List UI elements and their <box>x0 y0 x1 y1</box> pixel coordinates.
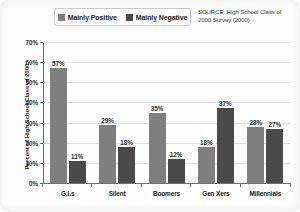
bar <box>168 159 185 183</box>
bar-value-label: 12% <box>170 151 183 158</box>
bar-value-label: 29% <box>101 117 114 124</box>
legend-label-mainly-positive: Mainly Positive <box>68 14 117 21</box>
bar-value-label: 18% <box>120 139 133 146</box>
bar <box>217 108 234 183</box>
bar <box>198 147 215 183</box>
x-tick-label: Silent <box>92 190 141 197</box>
bar-column: 18% <box>198 42 215 183</box>
y-tick-label: 30% <box>25 119 38 126</box>
bar-column: 35% <box>149 42 166 183</box>
bar-column: 57% <box>50 42 67 183</box>
y-tick-label: 40% <box>25 99 38 106</box>
y-tick-label: 0% <box>29 180 38 187</box>
x-tick: G.I.s <box>43 183 92 203</box>
legend-item-mainly-negative: Mainly Negative <box>126 14 187 21</box>
bar-value-label: 18% <box>200 139 213 146</box>
bar-column: 11% <box>69 42 86 183</box>
bar-group: 29%18% <box>92 42 141 183</box>
bar-value-label: 35% <box>151 105 164 112</box>
x-tick: Boomers <box>142 183 191 203</box>
legend-item-mainly-positive: Mainly Positive <box>58 14 117 21</box>
bar-value-label: 37% <box>219 100 232 107</box>
bar-value-label: 57% <box>52 60 65 67</box>
bar <box>266 129 283 183</box>
x-tick: Silent <box>92 183 141 203</box>
x-tick-label: G.I.s <box>43 190 92 197</box>
x-tick-label: Boomers <box>142 190 191 197</box>
bar-groups: 57%11%29%18%35%12%18%37%28%27% <box>43 42 290 183</box>
bar-column: 29% <box>99 42 116 183</box>
x-tick-label: Gen Xers <box>191 190 240 197</box>
x-axis-categories: G.I.sSilentBoomersGen XersMillennials <box>43 183 290 203</box>
chart-legend: Mainly Positive Mainly Negative <box>54 8 191 26</box>
bar <box>247 127 264 183</box>
x-tick: Gen Xers <box>191 183 240 203</box>
x-tick-label: Millennials <box>241 190 290 197</box>
bar-column: 18% <box>118 42 135 183</box>
x-tick: Millennials <box>241 183 290 203</box>
bar <box>99 125 116 183</box>
bar-column: 37% <box>217 42 234 183</box>
y-tick-label: 10% <box>25 159 38 166</box>
chart-figure: Mainly Positive Mainly Negative SOURCE: … <box>0 0 300 212</box>
y-tick-label: 20% <box>25 139 38 146</box>
bar-value-label: 27% <box>269 121 282 128</box>
y-tick-label: 70% <box>25 39 38 46</box>
legend-swatch-negative-icon <box>126 14 133 21</box>
bar <box>69 161 86 183</box>
bar-group: 28%27% <box>241 42 290 183</box>
bar-column: 27% <box>266 42 283 183</box>
legend-label-mainly-negative: Mainly Negative <box>136 14 187 21</box>
bar-group: 57%11% <box>43 42 92 183</box>
legend-swatch-positive-icon <box>58 14 65 21</box>
source-note: SOURCE: High School Class of 2000 Survey… <box>198 8 294 24</box>
bar-column: 28% <box>247 42 264 183</box>
y-tick-label: 60% <box>25 59 38 66</box>
bar-group: 18%37% <box>191 42 240 183</box>
y-tick-label: 50% <box>25 79 38 86</box>
bar <box>118 147 135 183</box>
bar-value-label: 11% <box>71 153 83 160</box>
bar-value-label: 28% <box>250 119 263 126</box>
bar <box>149 113 166 184</box>
bar <box>50 68 67 183</box>
bar-group: 35%12% <box>142 42 191 183</box>
bar-column: 12% <box>168 42 185 183</box>
